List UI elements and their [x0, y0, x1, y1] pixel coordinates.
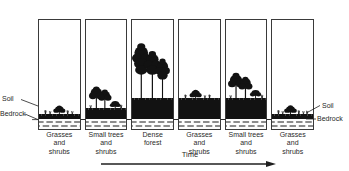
soil-layer-c [132, 98, 173, 119]
bedrock-layer-a [38, 119, 81, 130]
vegetation-grasses-and-shrubs-icon [272, 20, 313, 119]
bedrock-layer-d [178, 119, 221, 130]
succession-panel-a: A [38, 19, 81, 119]
succession-panel-c: C [131, 19, 174, 119]
bedrock-label-right: Bedrock [317, 115, 343, 123]
bedrock-layer-e [225, 119, 268, 130]
succession-panel-d: D [178, 19, 221, 119]
succession-panel-b: B [85, 19, 128, 119]
succession-panel-e: E [225, 19, 268, 119]
time-axis-label: Time [100, 150, 280, 159]
time-axis: Time [100, 150, 280, 168]
bedrock-row [38, 119, 314, 130]
bedrock-layer-c [131, 119, 174, 130]
soil-label-left: Soil [2, 95, 14, 103]
bedrock-label-left: Bedrock [0, 110, 26, 118]
ecological-succession-diagram: A [0, 0, 349, 171]
succession-panel-f: F [271, 19, 314, 119]
bedrock-layer-b [85, 119, 128, 130]
bedrock-layer-f [271, 119, 314, 130]
vegetation-grasses-and-shrubs-icon [39, 20, 80, 119]
soil-layer-b [86, 108, 127, 119]
soil-layer-e [226, 98, 267, 119]
vegetation-small-trees-and-shrubs-icon [86, 20, 127, 119]
soil-layer-d [179, 98, 220, 119]
panel-caption-a: Grasses and shrubs [38, 131, 81, 156]
soil-label-right: Soil [322, 102, 334, 110]
arrow-right-icon [100, 160, 280, 168]
panel-row: A [38, 19, 314, 119]
